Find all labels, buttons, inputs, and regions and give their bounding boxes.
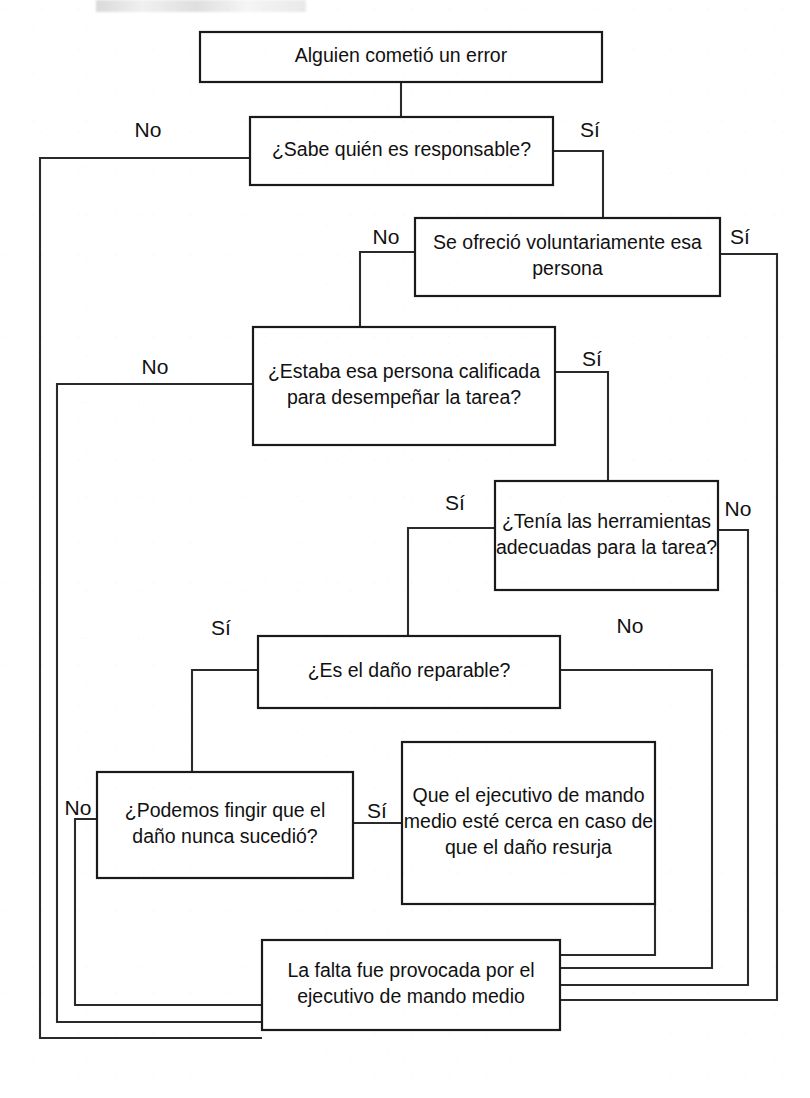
edge-label-s-e6: Sí: [582, 347, 602, 370]
edge-label-no-e3: No: [373, 225, 400, 248]
connector-n8-to-n9: [560, 904, 655, 955]
edge-label-no-e11: No: [65, 796, 92, 819]
edge-label-s-e2: Sí: [580, 118, 600, 141]
connector-n3-to-n4: [360, 252, 415, 327]
flowchart-svg: Alguien cometió un error¿Sabe quién es r…: [0, 0, 810, 1098]
node-label-line: ejecutivo de mando medio: [297, 985, 525, 1007]
node-label-line: Alguien cometió un error: [295, 44, 508, 66]
edge-label-no-e1: No: [135, 118, 162, 141]
node-n4: ¿Estaba esa persona calificadapara desem…: [253, 327, 555, 445]
node-n2: ¿Sabe quién es responsable?: [250, 117, 553, 185]
node-n9: La falta fue provocada por elejecutivo d…: [262, 940, 560, 1030]
connector-n2-to-n9: [40, 158, 262, 1038]
connector-n4-to-n9: [57, 384, 262, 1022]
node-label-line: daño nunca sucedió?: [132, 825, 318, 847]
edge-label-no-e8: No: [725, 497, 752, 520]
node-n3: Se ofreció voluntariamente esapersona: [415, 218, 720, 296]
node-label-line: ¿Podemos fingir que el: [125, 799, 326, 821]
node-label-line: Se ofreció voluntariamente esa: [433, 231, 702, 253]
node-label-line: ¿Tenía las herramientas: [502, 510, 711, 532]
node-n1: Alguien cometió un error: [200, 32, 602, 82]
edge-label-s-e7: Sí: [445, 491, 465, 514]
connector-n2-to-n3: [553, 151, 603, 218]
node-label-line: adecuadas para la tarea?: [496, 536, 717, 558]
node-label-line: que el daño resurja: [445, 836, 612, 858]
node-n8: Que el ejecutivo de mandomedio esté cerc…: [402, 742, 655, 904]
node-label-line: para desempeñar la tarea?: [287, 386, 521, 408]
node-label-line: Que el ejecutivo de mando: [413, 784, 645, 806]
node-label-line: persona: [532, 257, 603, 279]
node-label-line: medio esté cerca en caso de: [404, 810, 653, 832]
connector-n6-to-n7: [192, 670, 258, 772]
node-n7: ¿Podemos fingir que eldaño nunca sucedió…: [97, 772, 353, 878]
connector-n5-to-n6: [408, 528, 495, 636]
node-label-line: ¿Sabe quién es responsable?: [272, 138, 531, 160]
node-n6: ¿Es el daño reparable?: [258, 636, 560, 708]
edge-label-s-e9: Sí: [211, 616, 231, 639]
node-label-line: ¿Estaba esa persona calificada: [268, 360, 540, 382]
node-label-line: La falta fue provocada por el: [287, 959, 534, 981]
edge-label-no-e10: No: [617, 614, 644, 637]
connector-n4-to-n5: [555, 372, 608, 481]
edge-label-s-e4: Sí: [730, 225, 750, 248]
edge-label-s-e12: Sí: [367, 799, 387, 822]
flowchart-canvas: Alguien cometió un error¿Sabe quién es r…: [0, 0, 810, 1098]
node-label-line: ¿Es el daño reparable?: [308, 659, 511, 681]
edge-label-no-e5: No: [142, 355, 169, 378]
node-n5: ¿Tenía las herramientasadecuadas para la…: [495, 481, 718, 590]
